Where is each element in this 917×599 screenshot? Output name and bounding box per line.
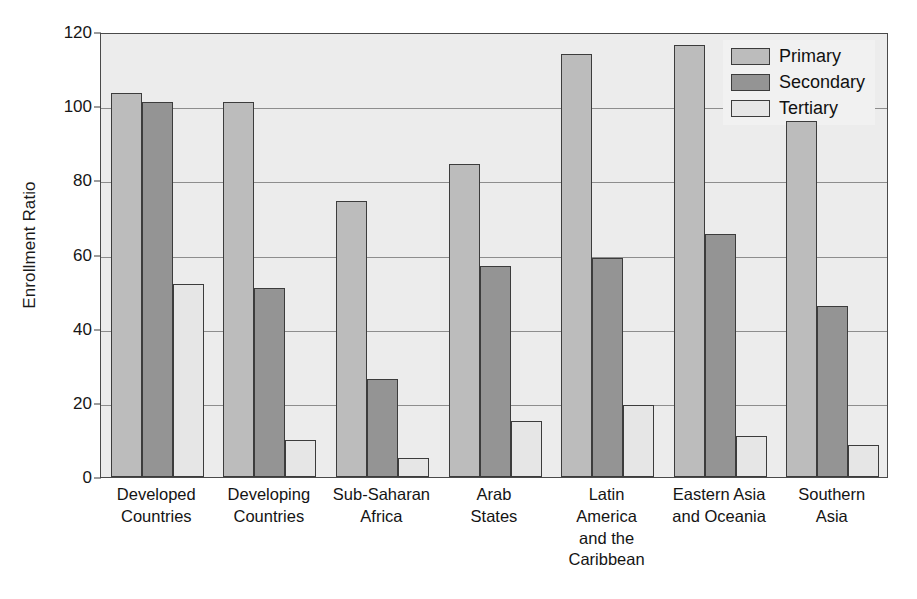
bar-primary-4 — [449, 164, 480, 477]
bar-secondary-7 — [817, 306, 848, 477]
x-category-label-line: Eastern Asia — [663, 484, 776, 506]
bar-primary-2 — [223, 102, 254, 477]
bar-primary-7 — [786, 121, 817, 477]
y-tick-mark — [94, 478, 101, 479]
x-category-label: DevelopedCountries — [100, 484, 213, 528]
x-category-label: Sub-SaharanAfrica — [325, 484, 438, 528]
x-category-label: Eastern Asiaand Oceania — [663, 484, 776, 528]
x-category-label-line: Latin — [550, 484, 663, 506]
bar-secondary-4 — [480, 266, 511, 477]
x-category-label: LatinAmericaand theCaribbean — [550, 484, 663, 571]
x-category-label-line: Africa — [325, 506, 438, 528]
legend-item-primary[interactable]: Primary — [731, 44, 865, 68]
legend-swatch-primary — [731, 48, 770, 65]
y-tick-label: 120 — [64, 23, 92, 43]
x-category-label-line: Arab — [438, 484, 551, 506]
bar-tertiary-5 — [623, 405, 654, 477]
y-tick-label: 100 — [64, 97, 92, 117]
x-category-label-line: Countries — [213, 506, 326, 528]
y-tick-label: 0 — [83, 468, 92, 488]
y-tick-label: 60 — [73, 246, 92, 266]
legend-label: Secondary — [779, 73, 865, 91]
x-axis-category-labels: DevelopedCountriesDevelopingCountriesSub… — [100, 484, 888, 594]
bar-primary-3 — [336, 201, 367, 477]
legend-swatch-secondary — [731, 74, 770, 91]
x-category-label-line: Southern — [775, 484, 888, 506]
x-category-label-line: States — [438, 506, 551, 528]
bar-secondary-3 — [367, 379, 398, 477]
x-category-label-line: Developed — [100, 484, 213, 506]
y-tick-mark — [94, 255, 101, 256]
bar-secondary-1 — [142, 102, 173, 477]
bar-primary-1 — [111, 93, 142, 477]
bar-secondary-6 — [705, 234, 736, 477]
legend: PrimarySecondaryTertiary — [723, 40, 875, 125]
bar-primary-5 — [561, 54, 592, 477]
y-tick-mark — [94, 329, 101, 330]
legend-item-tertiary[interactable]: Tertiary — [731, 96, 865, 120]
x-category-label: DevelopingCountries — [213, 484, 326, 528]
bar-secondary-5 — [592, 258, 623, 477]
x-category-label-line: and the — [550, 528, 663, 550]
y-tick-mark — [94, 33, 101, 34]
x-category-label: SouthernAsia — [775, 484, 888, 528]
y-tick-label: 80 — [73, 171, 92, 191]
y-axis-tick-labels: 020406080100120 — [48, 33, 92, 478]
bar-tertiary-6 — [736, 436, 767, 477]
bar-tertiary-1 — [173, 284, 204, 477]
legend-swatch-tertiary — [731, 100, 770, 117]
bar-tertiary-4 — [511, 421, 542, 477]
bar-tertiary-3 — [398, 458, 429, 477]
plot-area: PrimarySecondaryTertiary — [100, 33, 888, 478]
bar-chart-figure: Enrollment Ratio 020406080100120 Primary… — [0, 0, 917, 599]
legend-label: Tertiary — [779, 99, 838, 117]
x-category-label: ArabStates — [438, 484, 551, 528]
legend-label: Primary — [779, 47, 841, 65]
x-category-label-line: Caribbean — [550, 549, 663, 571]
x-category-label-line: Countries — [100, 506, 213, 528]
y-tick-mark — [94, 107, 101, 108]
bar-primary-6 — [674, 45, 705, 477]
y-tick-mark — [94, 403, 101, 404]
y-tick-label: 20 — [73, 394, 92, 414]
legend-item-secondary[interactable]: Secondary — [731, 70, 865, 94]
x-category-label-line: Sub-Saharan — [325, 484, 438, 506]
y-tick-mark — [94, 181, 101, 182]
x-category-label-line: Asia — [775, 506, 888, 528]
y-axis-title-text: Enrollment Ratio — [20, 181, 40, 308]
bar-tertiary-7 — [848, 445, 879, 477]
y-axis-title: Enrollment Ratio — [10, 0, 50, 490]
x-category-label-line: Developing — [213, 484, 326, 506]
bar-tertiary-2 — [285, 440, 316, 477]
y-tick-label: 40 — [73, 320, 92, 340]
x-category-label-line: America — [550, 506, 663, 528]
bar-secondary-2 — [254, 288, 285, 477]
x-category-label-line: and Oceania — [663, 506, 776, 528]
